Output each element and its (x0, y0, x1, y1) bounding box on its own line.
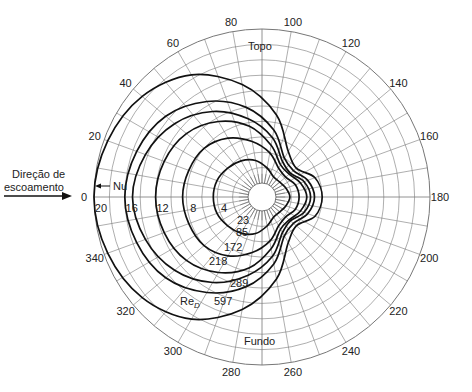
series-label: 289 (230, 277, 248, 289)
angle-tick-label: 260 (284, 366, 302, 378)
radial-tick-label: 8 (190, 202, 196, 214)
radial-tick-label: 12 (156, 202, 168, 214)
angle-tick-label: 20 (89, 130, 101, 142)
nu-arrow-icon (95, 184, 110, 189)
series-label: 172 (224, 241, 242, 253)
flow-direction-label-1: Direção de (12, 168, 65, 180)
angle-tick-label: 40 (120, 77, 132, 89)
angle-tick-label: 220 (389, 305, 407, 317)
angle-tick-label: 180 (431, 191, 449, 203)
angle-tick-label: 0 (81, 191, 87, 203)
flow-arrow-icon (4, 192, 72, 200)
flow-direction-label-2: escoamento (4, 181, 64, 193)
angle-tick-label: 160 (420, 130, 438, 142)
angle-tick-label: 240 (342, 345, 360, 357)
re-label: ReD (180, 295, 200, 310)
radial-tick-label: 20 (95, 202, 107, 214)
angle-tick-label: 340 (86, 252, 104, 264)
top-label: Topo (248, 40, 272, 52)
bottom-label: Fundo (244, 335, 275, 347)
angle-tick-label: 280 (222, 366, 240, 378)
polar-grid (94, 29, 430, 365)
series-label: 597 (214, 295, 232, 307)
series-label: 218 (209, 255, 227, 267)
angle-tick-label: 140 (389, 77, 407, 89)
angle-tick-label: 60 (167, 37, 179, 49)
angle-tick-label: 80 (225, 16, 237, 28)
radial-tick-label: 16 (126, 202, 138, 214)
angle-tick-label: 100 (284, 16, 302, 28)
radial-tick-label: 4 (221, 202, 227, 214)
nu-label: Nu (113, 180, 127, 192)
series-label: 85 (236, 226, 248, 238)
angle-tick-label: 200 (420, 252, 438, 264)
angle-tick-label: 300 (164, 345, 182, 357)
polar-chart: 0204060801001201401601802002202402602803… (0, 0, 472, 392)
angle-tick-label: 320 (116, 305, 134, 317)
series-label: 23 (237, 214, 249, 226)
angle-tick-label: 120 (342, 37, 360, 49)
